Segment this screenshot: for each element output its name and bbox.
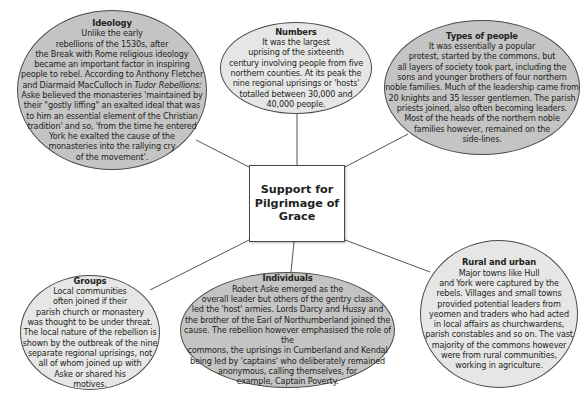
node-body: It was the largest uprising of the sixte… (229, 37, 363, 109)
node-numbers: Numbers It was the largest uprising of t… (220, 22, 372, 114)
node-types-of-people: Types of people It was essentially a pop… (384, 20, 580, 155)
node-body: Major towns like Hull and York were capt… (425, 268, 573, 371)
connector-ideology (196, 140, 249, 167)
node-body: Robert Aske emerged as the overall leade… (181, 284, 394, 387)
node-body: Unlike the early rebellions of the 1530s… (21, 28, 203, 162)
connector-rural-and-urban (345, 240, 430, 272)
book-title: Tudor Rebellions: (134, 80, 201, 90)
connector-individuals (291, 242, 294, 272)
node-ideology: Ideology Unlike the early rebellions of … (17, 10, 207, 170)
node-title: Rural and urban (462, 257, 536, 267)
node-title: Individuals (262, 273, 312, 283)
node-rural-and-urban: Rural and urban Major towns like Hull an… (420, 240, 578, 388)
node-groups: Groups Local communities often joined if… (20, 275, 160, 390)
node-title: Types of people (446, 31, 518, 41)
node-body: It was essentially a popular protest, st… (385, 41, 579, 144)
node-title: Ideology (92, 18, 131, 28)
central-topic-label: Support for Pilgrimage of Grace (255, 183, 339, 224)
node-title: Groups (74, 276, 107, 286)
central-topic: Support for Pilgrimage of Grace (249, 165, 345, 242)
node-body: Local communities often joined if their … (23, 286, 158, 389)
node-individuals: Individuals Robert Aske emerged as the o… (180, 272, 395, 388)
node-title: Numbers (275, 27, 316, 37)
